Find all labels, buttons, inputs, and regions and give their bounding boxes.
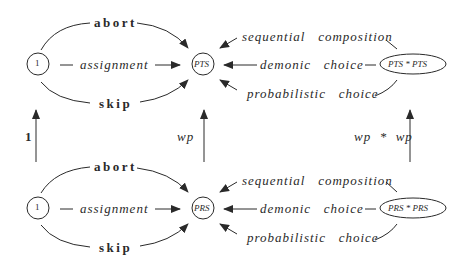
label-assignment-top: assignment: [80, 58, 149, 71]
edge-seq-top: [220, 38, 237, 48]
edge-abort-top-a: [41, 23, 90, 50]
node-label-1-top: 1: [35, 59, 40, 68]
edge-skip-top-b: [140, 80, 188, 102]
edge-skip-top-a: [41, 82, 90, 103]
edge-abort-bottom-a: [41, 167, 90, 193]
label-assignment-bottom: assignment: [80, 202, 149, 215]
label-skip-bottom: skip: [99, 241, 132, 254]
diagram-canvas: 1 PTS PTS * PTS abort assignment skip se…: [0, 0, 466, 267]
label-skip-top: skip: [99, 97, 132, 110]
edge-abort-bottom-b: [137, 168, 188, 192]
label-prob-bottom: probabilistic choice: [247, 231, 379, 244]
label-demonic-bottom: demonic choice: [260, 202, 364, 215]
edge-seq-bottom: [220, 182, 237, 192]
label-map-wp: wp: [177, 130, 194, 143]
node-label-pts: PTS: [194, 60, 209, 69]
label-map-1: 1: [25, 130, 32, 143]
label-map-wpwp: wp * wp: [354, 130, 413, 143]
label-abort-bottom: abort: [94, 160, 137, 173]
node-label-prs-prs: PRS * PRS: [388, 204, 428, 213]
label-abort-top: abort: [94, 16, 137, 29]
label-demonic-top: demonic choice: [260, 58, 364, 71]
edge-prob-bottom: [220, 224, 237, 234]
node-label-pts-pts: PTS * PTS: [388, 60, 427, 69]
edge-skip-bottom-b: [140, 224, 188, 246]
edge-abort-top-b: [137, 23, 188, 48]
edge-skip-bottom-a: [41, 225, 90, 247]
label-prob-top: probabilistic choice: [247, 87, 379, 100]
node-label-1-bottom: 1: [35, 203, 40, 212]
label-seq-bottom: sequential composition: [242, 174, 393, 187]
label-seq-top: sequential composition: [242, 30, 393, 43]
node-label-prs: PRS: [194, 204, 210, 213]
edge-prob-top: [220, 80, 237, 90]
